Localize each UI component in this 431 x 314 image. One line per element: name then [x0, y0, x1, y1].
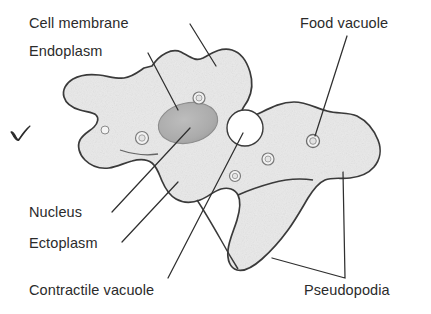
food-vacuole-small-top [193, 92, 205, 104]
label-contractile-vacuole: Contractile vacuole [29, 283, 154, 298]
food-vacuole-small-left [136, 132, 149, 145]
contractile-vacuole [227, 110, 263, 146]
label-food-vacuole: Food vacuole [300, 16, 388, 31]
amoeba-diagram: Cell membrane Endoplasm Food vacuole Nuc… [0, 0, 431, 314]
food-vacuole-small-lower-right [262, 153, 274, 165]
food-vacuole-tiny-left [101, 126, 109, 134]
label-cell-membrane: Cell membrane [29, 16, 129, 31]
food-vacuole [307, 135, 320, 148]
food-vacuole-small-lower-center [230, 171, 241, 182]
label-nucleus: Nucleus [29, 205, 82, 220]
label-pseudopodia: Pseudopodia [304, 283, 390, 298]
label-endoplasm: Endoplasm [29, 44, 102, 59]
check-mark-icon [8, 120, 34, 146]
label-ectoplasm: Ectoplasm [29, 236, 98, 251]
leader-ectoplasm [122, 182, 178, 242]
